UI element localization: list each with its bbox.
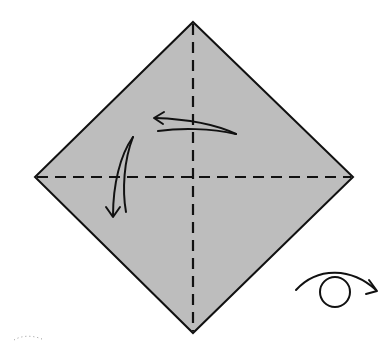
dotted-artifact	[14, 336, 44, 340]
origami-diagram	[0, 0, 390, 342]
turn-over-icon	[296, 273, 377, 307]
